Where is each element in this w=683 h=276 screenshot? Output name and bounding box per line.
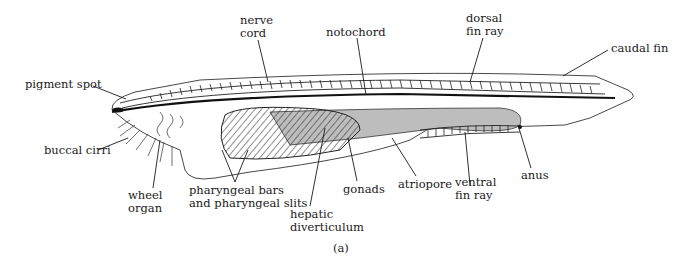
label-caudal-fin: caudal fin (611, 42, 668, 55)
label-dorsal-fin-ray: dorsal fin ray (466, 12, 504, 38)
label-buccal-cirri: buccal cirri (44, 144, 111, 157)
label-anus: anus (521, 169, 549, 182)
label-notochord: notochord (326, 26, 386, 39)
label-hepatic-diverticulum: hepatic diverticulum (290, 208, 364, 234)
figure-caption: (a) (333, 242, 349, 255)
label-pigment-spot: pigment spot (25, 78, 102, 91)
amphioxus-diagram: nerve cord notochord dorsal fin ray caud… (0, 0, 683, 276)
pigment-spot-mark (112, 108, 124, 113)
label-ventral-fin-ray: ventral fin ray (455, 176, 496, 202)
label-gonads: gonads (343, 183, 385, 196)
label-wheel-organ: wheel organ (128, 189, 163, 215)
label-nerve-cord: nerve cord (240, 14, 273, 40)
label-atriopore: atriopore (398, 178, 452, 191)
amphioxus-body-drawing (0, 0, 683, 276)
